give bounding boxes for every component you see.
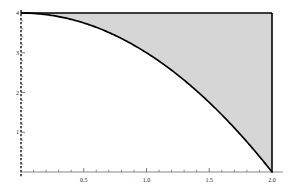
x-tick-label: 1.5 — [206, 177, 214, 183]
plot-canvas — [0, 0, 291, 192]
x-tick-label: 0.5 — [80, 177, 88, 183]
x-tick-label: 1.0 — [143, 177, 151, 183]
shaded-region — [21, 13, 272, 172]
y-tick-label: 4 — [12, 10, 19, 16]
y-tick-label: 3 — [12, 50, 19, 56]
chart-figure: 0.51.01.52.0 1234 — [0, 0, 291, 192]
y-tick-label: 2 — [12, 90, 19, 96]
x-tick-label: 2.0 — [268, 177, 276, 183]
x-axis-ticks — [34, 168, 272, 172]
y-tick-label: 1 — [12, 129, 19, 135]
